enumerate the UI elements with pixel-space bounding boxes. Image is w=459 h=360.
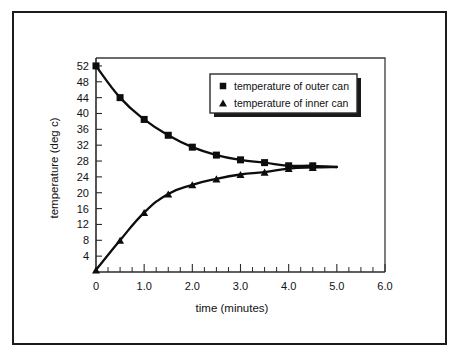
y-axis-tick-label: 48: [77, 76, 89, 88]
y-axis-tick-label: 40: [77, 107, 89, 119]
figure-root: 01.02.03.04.05.06.0 48121620242832364044…: [0, 0, 459, 360]
y-axis-tick-label: 16: [77, 203, 89, 215]
temperature-time-chart: 01.02.03.04.05.06.0 48121620242832364044…: [0, 0, 459, 360]
y-axis-tick-label: 24: [77, 171, 89, 183]
x-axis-tick-label: 6.0: [377, 280, 392, 292]
x-axis-tick-label: 4.0: [281, 280, 296, 292]
data-point-marker: [141, 116, 148, 123]
y-axis-tick-label: 44: [77, 92, 89, 104]
y-axis-tick-label: 8: [83, 234, 89, 246]
y-axis-tick-label: 12: [77, 218, 89, 230]
legend-entry-label: temperature of outer can: [234, 80, 349, 92]
series-line: [96, 167, 337, 270]
y-axis-tick-label: 4: [83, 250, 89, 262]
y-axis-title: temperature (deg c): [48, 117, 60, 218]
legend-entry-label: temperature of inner can: [234, 97, 349, 109]
x-axis-tick-label: 2.0: [185, 280, 200, 292]
data-point-marker: [165, 132, 172, 139]
y-axis-tick-label: 36: [77, 123, 89, 135]
x-axis-tick-label: 1.0: [137, 280, 152, 292]
x-axis-tick-label: 0: [93, 280, 99, 292]
y-axis-tick-labels: 481216202428323640444852: [77, 60, 89, 262]
data-point-marker: [117, 94, 124, 101]
y-axis-tick-label: 28: [77, 155, 89, 167]
x-axis-title: time (minutes): [196, 302, 269, 314]
y-axis-tick-label: 32: [77, 139, 89, 151]
x-axis-tick-labels: 01.02.03.04.05.06.0: [93, 280, 393, 292]
data-point-marker: [93, 62, 100, 69]
y-axis-major-ticks: [96, 66, 102, 256]
data-point-marker: [189, 144, 196, 151]
data-point-marker: [261, 159, 268, 166]
data-point-marker: [213, 152, 220, 159]
y-axis-tick-label: 20: [77, 187, 89, 199]
x-axis-tick-label: 5.0: [329, 280, 344, 292]
series-inner-can: [92, 164, 337, 274]
data-point-marker: [220, 83, 227, 90]
chart-legend: temperature of outer cantemperature of i…: [210, 74, 361, 117]
y-axis-tick-label: 52: [77, 60, 89, 72]
data-point-marker: [237, 156, 244, 163]
x-axis-tick-label: 3.0: [233, 280, 248, 292]
